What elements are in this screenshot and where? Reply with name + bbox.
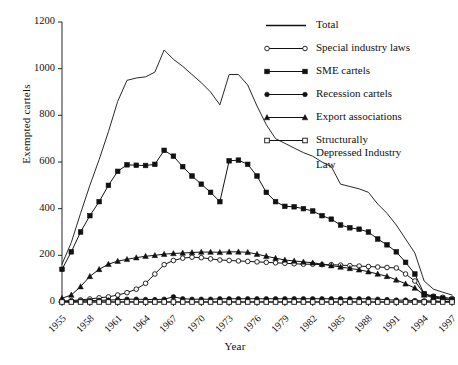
legend-marker-filled-square-icon xyxy=(262,65,310,78)
y-tick-label: 400 xyxy=(21,202,55,213)
series-structurally-depressed-industry-law xyxy=(60,300,455,305)
legend-label: Structurally Depressed Industry Law xyxy=(316,133,401,171)
y-tick-label: 200 xyxy=(21,248,55,259)
legend-marker-filled-circle-icon xyxy=(262,88,310,101)
legend-item: Recession cartels xyxy=(262,87,458,101)
legend-item: Export associations xyxy=(262,110,458,124)
legend-label: Total xyxy=(316,18,338,31)
legend-marker-none-icon xyxy=(262,19,310,32)
legend-marker-open-circle-icon xyxy=(262,42,310,55)
legend-marker-filled-triangle-icon xyxy=(262,111,310,124)
legend-label: Special industry laws xyxy=(316,41,410,54)
legend-item: SME cartels xyxy=(262,64,458,78)
legend-label: SME cartels xyxy=(316,64,370,77)
legend-item: Special industry laws xyxy=(262,41,458,55)
legend-marker-open-square-icon xyxy=(262,134,310,147)
chart-figure: Exempted cartels Year 020040060080010001… xyxy=(0,0,458,365)
y-tick-label: 1200 xyxy=(21,15,55,26)
y-tick-label: 800 xyxy=(21,108,55,119)
chart-legend: TotalSpecial industry lawsSME cartelsRec… xyxy=(262,18,458,180)
legend-item: Total xyxy=(262,18,458,32)
y-tick-label: 0 xyxy=(21,295,55,306)
legend-label: Recession cartels xyxy=(316,87,392,100)
legend-item: Structurally Depressed Industry Law xyxy=(262,133,458,171)
y-tick-label: 600 xyxy=(21,155,55,166)
x-axis-title: Year xyxy=(180,340,290,352)
y-tick-label: 1000 xyxy=(21,62,55,73)
y-axis-title: Exempted cartels xyxy=(20,54,32,194)
legend-label: Export associations xyxy=(316,110,402,123)
